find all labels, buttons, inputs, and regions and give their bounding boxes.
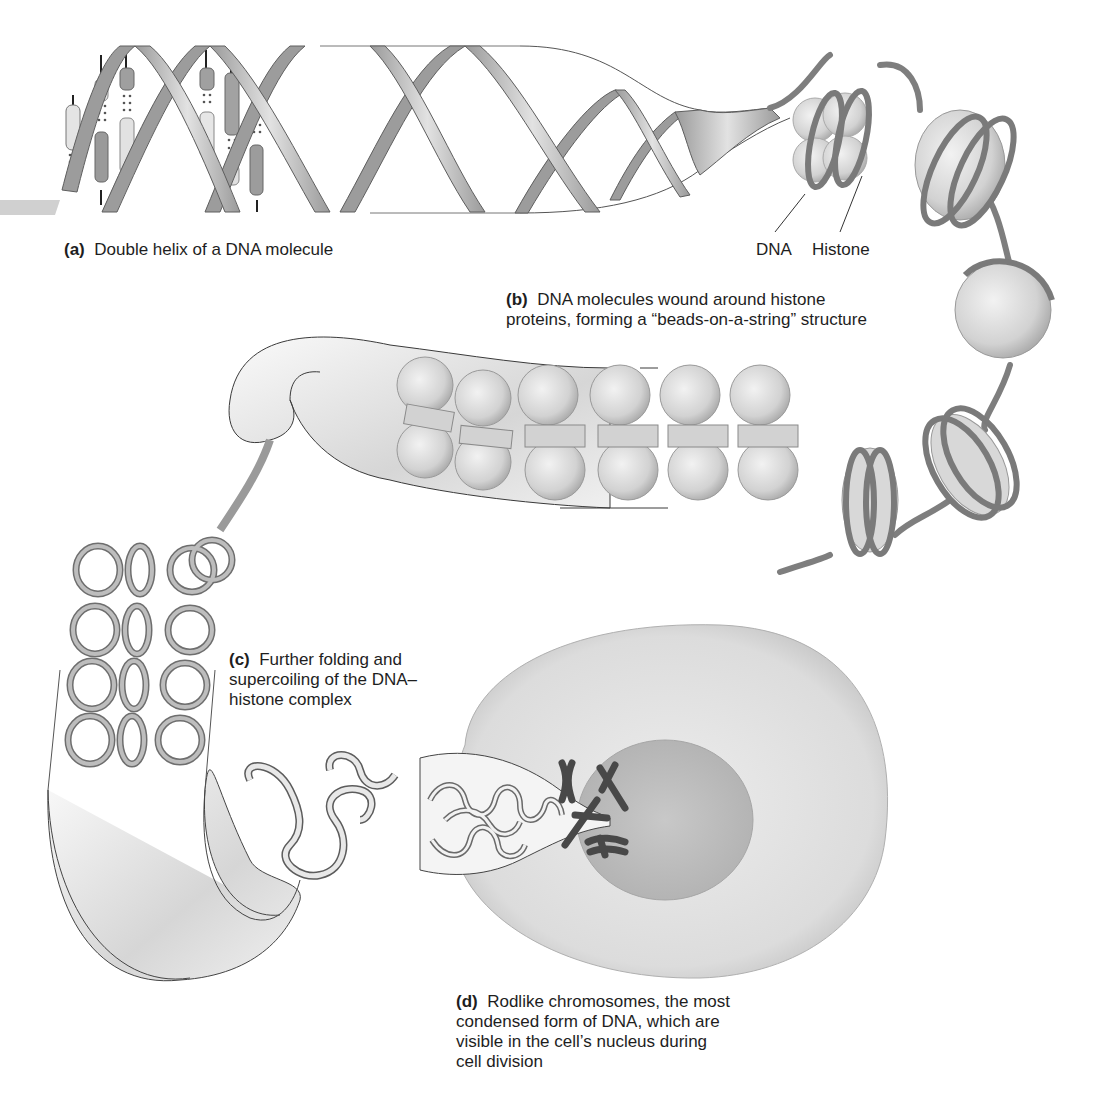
caption-b: (b) DNA molecules wound around histone p… [506,290,867,330]
caption-b-line-1: DNA molecules wound around histone [537,290,825,309]
coil-row-3 [70,661,207,709]
caption-a-text: Double helix of a DNA molecule [94,240,333,259]
caption-c-line-3: histone complex [229,690,417,710]
caption-d: (d) Rodlike chromosomes, the most conden… [456,992,730,1072]
caption-a: (a) Double helix of a DNA molecule [64,240,333,260]
helix-backbone-back [62,46,683,213]
nucleosome-bead-1 [793,88,876,190]
caption-d-line-3: visible in the cell’s nucleus during [456,1032,730,1052]
histone-callout-label: Histone [812,240,870,260]
caption-c-line-2: supercoiling of the DNA– [229,670,417,690]
supercoiled-fiber [48,440,270,790]
caption-a-tag: (a) [64,240,85,259]
caption-b-tag: (b) [506,290,528,309]
caption-d-tag: (d) [456,992,478,1011]
nucleosome-bead-2 [911,108,1027,234]
coil-row-4 [68,716,202,764]
caption-d-line-1: Rodlike chromosomes, the most [487,992,730,1011]
nucleosome-bead-5 [842,448,898,554]
dna-packaging-diagram [0,0,1104,1108]
caption-c-line-1: Further folding and [259,650,402,669]
double-helix [0,46,790,215]
caption-c: (c) Further folding and supercoiling of … [229,650,417,710]
caption-b-line-2: proteins, forming a “beads-on-a-string” … [506,310,867,330]
nucleosome-bead-3 [955,261,1052,358]
caption-c-tag: (c) [229,650,250,669]
caption-d-line-4: cell division [456,1052,730,1072]
chromosome-1 [562,763,572,800]
condensing-loops [48,755,395,981]
dna-callout-label: DNA [756,240,792,260]
cell [420,625,888,978]
nucleosome-bead-4 [910,396,1031,529]
dna-callout-line [775,194,805,232]
chromatin-fiber [229,337,798,508]
caption-d-line-2: condensed form of DNA, which are [456,1012,730,1032]
coil-row-2 [73,606,212,654]
